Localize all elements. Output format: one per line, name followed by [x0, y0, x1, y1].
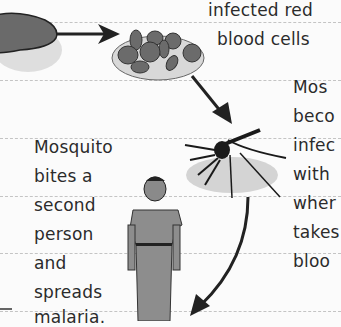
label-infected-cells-line2: blood cells: [217, 25, 310, 54]
left-text-line: bites a: [34, 162, 93, 191]
right-text-line: Mos: [293, 73, 328, 102]
left-text-line: second: [34, 191, 96, 220]
label-infected-cells-line1: infected red: [208, 0, 313, 25]
mosquito-icon: [185, 130, 286, 198]
right-text-line: with: [293, 160, 330, 189]
right-text-line: wher: [293, 189, 336, 218]
person-icon: [128, 177, 182, 322]
right-text-line: bloo: [293, 247, 330, 276]
left-text-line: and: [34, 249, 67, 278]
arrow-icon: [192, 76, 232, 124]
liver-icon: [0, 13, 62, 72]
left-text-line: malaria.: [34, 303, 105, 327]
right-text-line: beco: [293, 102, 335, 131]
right-text-line: infec: [293, 131, 335, 160]
right-text-line: takes: [293, 218, 340, 247]
arrow-icon: [190, 197, 248, 316]
red-blood-cells-icon: [112, 30, 204, 80]
arrow-icon: [57, 24, 120, 44]
left-text-line: Mosquito: [34, 133, 113, 162]
left-text-line: person: [34, 220, 93, 249]
